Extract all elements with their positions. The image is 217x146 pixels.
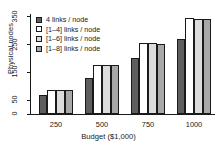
y-tick-mark: [27, 16, 30, 17]
bar: [139, 43, 148, 114]
bar: [177, 39, 186, 114]
x-tick-label: 750: [128, 120, 168, 129]
bar: [148, 43, 157, 114]
bar-group: [177, 14, 211, 114]
bar: [47, 90, 56, 114]
bar: [111, 65, 120, 114]
legend-swatch-icon: [36, 26, 42, 32]
y-tick-mark: [27, 100, 30, 101]
x-axis-line: [30, 114, 215, 115]
legend-swatch-icon: [36, 46, 42, 52]
legend-label: [1–6] links / node: [46, 34, 100, 44]
bar-group: [131, 14, 165, 114]
bar-chart: Physical nodes 050150250350 250500750100…: [0, 0, 217, 146]
legend-label: [1–4] links / node: [46, 25, 100, 35]
y-tick-label: 50: [10, 89, 19, 111]
bar: [194, 19, 203, 114]
bar: [56, 90, 65, 114]
legend-swatch-icon: [36, 17, 42, 23]
legend-item: [1–4] links / node: [36, 25, 100, 35]
legend-swatch-icon: [36, 36, 42, 42]
bar: [131, 58, 140, 114]
x-axis-title: Budget ($1,000): [0, 132, 217, 141]
y-tick-mark: [27, 44, 30, 45]
y-tick-label: 350: [10, 5, 19, 27]
bar: [157, 44, 166, 114]
bar: [203, 19, 212, 114]
bar: [185, 18, 194, 114]
y-tick-label: 150: [10, 61, 19, 83]
x-tick-label: 500: [82, 120, 122, 129]
bar: [39, 95, 48, 114]
y-tick-label: 250: [10, 33, 19, 55]
bar: [93, 65, 102, 114]
bar: [85, 78, 94, 114]
legend-label: [1–8] links / node: [46, 44, 100, 54]
bar: [65, 90, 74, 114]
legend: 4 links / node[1–4] links / node[1–6] li…: [36, 15, 100, 53]
legend-item: 4 links / node: [36, 15, 100, 25]
y-tick-mark: [27, 72, 30, 73]
x-tick-label: 1000: [174, 120, 214, 129]
x-tick-label: 250: [36, 120, 76, 129]
legend-label: 4 links / node: [46, 15, 88, 25]
legend-item: [1–8] links / node: [36, 44, 100, 54]
bar: [102, 65, 111, 114]
legend-item: [1–6] links / node: [36, 34, 100, 44]
